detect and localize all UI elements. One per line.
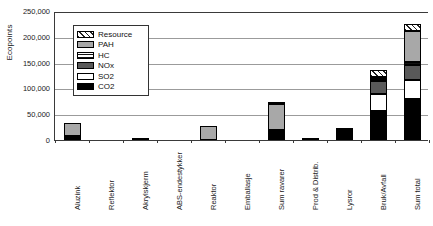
x-category-label: Lysror [346,189,354,210]
y-tick-label: 0 [4,137,50,145]
legend-label: CO2 [98,82,114,91]
x-category-label: Emballasje [244,173,252,210]
bar-segment-pah [200,126,217,140]
bar-segment-co2 [302,138,319,140]
bar-segment-pah [404,31,421,62]
bar[interactable] [200,126,217,140]
x-category-label: Reaktor [210,184,218,210]
legend-swatch-resource-icon [77,31,94,38]
legend-item[interactable]: NOx [77,61,144,72]
gridline [55,12,428,13]
legend-item[interactable]: Resource [77,29,144,40]
bar[interactable] [404,24,421,140]
bar[interactable] [64,123,81,140]
y-tick-label: 250,000 [4,8,50,16]
x-tick [191,140,192,143]
legend-item[interactable]: SO2 [77,71,144,82]
x-tick [327,140,328,143]
bar[interactable] [302,138,319,140]
legend-swatch-co2-icon [77,83,94,90]
x-category-label: ABS-endestykker [176,152,184,210]
bar-segment-co2 [268,136,285,140]
legend-swatch-pah-icon [77,41,94,48]
legend-label: SO2 [98,72,114,81]
y-tick-label: 150,000 [4,60,50,68]
bar-segment-co2 [64,138,81,140]
bar-segment-pah [64,123,81,136]
legend-swatch-hc-icon [77,52,94,59]
x-tick [157,140,158,143]
x-category-label: Prod & Distrib. [312,162,320,210]
legend-item[interactable]: CO2 [77,82,144,93]
x-tick [259,140,260,143]
bar-segment-co2 [370,111,387,140]
x-category-label: Akrylskjerm [142,171,150,210]
legend-swatch-nox-icon [77,62,94,69]
bar[interactable] [336,128,353,140]
bar-segment-nox [370,81,387,94]
x-tick [55,140,56,143]
bar-segment-so2 [404,80,421,99]
x-tick [361,140,362,143]
x-category-label: Aluzink [74,186,82,210]
bar-segment-so2 [370,94,387,111]
legend-label: NOx [98,61,114,70]
legend-label: PAH [98,40,114,49]
x-category-label: Sum total [414,178,422,210]
figure-caption [0,214,433,225]
y-tick-label: 100,000 [4,85,50,93]
chart-figure: Ecopoints 250,000200,000150,000100,00050… [0,0,433,226]
x-category-label: Reflektor [108,180,116,210]
x-tick [123,140,124,143]
x-category-label: Sum ravarer [278,169,286,210]
bar-segment-pah [268,104,285,130]
x-tick [293,140,294,143]
legend-label: Resource [98,30,132,39]
bar[interactable] [268,102,285,140]
y-tick-label: 50,000 [4,111,50,119]
x-tick [89,140,90,143]
bar-segment-co2 [132,138,149,140]
x-tick [395,140,396,143]
bar[interactable] [132,138,149,140]
bar-segment-co2 [336,128,353,140]
bar-segment-nox [404,65,421,80]
x-tick [429,140,430,143]
bar[interactable] [370,70,387,140]
x-axis-category-labels: AluzinkReflektorAkrylskjermABS-endestykk… [54,144,428,214]
y-tick-label: 200,000 [4,34,50,42]
legend-item[interactable]: HC [77,50,144,61]
x-tick [225,140,226,143]
chart-legend: ResourcePAHHCNOxSO2CO2 [73,25,149,96]
y-axis-tick-labels: 250,000200,000150,000100,00050,0000 [0,0,50,226]
bar-segment-co2 [404,99,421,140]
bar-segment-resource [404,24,421,31]
legend-item[interactable]: PAH [77,40,144,51]
x-category-label: Bruk/Avfall [380,174,388,210]
legend-label: HC [98,51,110,60]
legend-swatch-so2-icon [77,73,94,80]
